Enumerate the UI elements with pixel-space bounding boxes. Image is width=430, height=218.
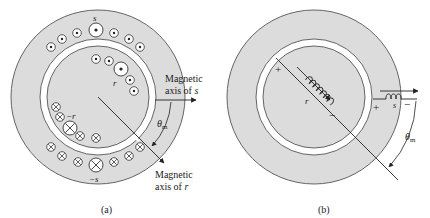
rotor-neg-label: −r bbox=[66, 111, 76, 121]
caption-a: (a) bbox=[101, 204, 112, 216]
caption-b: (b) bbox=[318, 204, 330, 216]
rotor-b bbox=[263, 46, 365, 148]
axis-s-line2: axis of s bbox=[165, 85, 198, 96]
stator-plus: + bbox=[373, 101, 379, 113]
rotor-label-r: r bbox=[113, 78, 117, 88]
rotor-minus: − bbox=[329, 109, 335, 121]
stator-coil-label: s bbox=[393, 101, 396, 110]
axis-r-line2: axis of r bbox=[155, 181, 188, 192]
machine-diagram: s r −r −s Magnetic axis of s Magnetic ax… bbox=[0, 0, 430, 218]
rotor-plus: + bbox=[275, 63, 281, 75]
theta-label-b: θm bbox=[405, 131, 416, 144]
figure-a: s r −r −s Magnetic axis of s Magnetic ax… bbox=[11, 10, 203, 216]
stator-label-s: s bbox=[93, 13, 97, 23]
figure-b: + − r + − s θm (b) bbox=[227, 10, 418, 216]
rotor-coil-label: r bbox=[305, 96, 309, 106]
stator-neg-label: −s bbox=[89, 174, 99, 184]
stator-minus: − bbox=[404, 98, 410, 110]
axis-r-line1: Magnetic bbox=[155, 169, 193, 180]
axis-s-line1: Magnetic bbox=[165, 73, 203, 84]
